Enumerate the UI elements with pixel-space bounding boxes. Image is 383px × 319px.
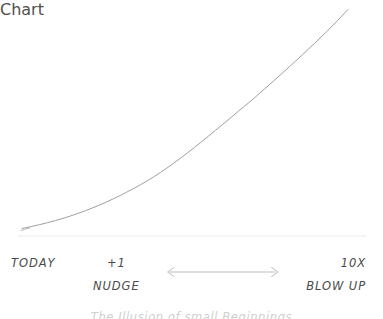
label-blow-up: BLOW UP [306,281,366,293]
label-plus-one: +1 [107,258,126,270]
label-ten-x: 10X [341,258,366,270]
label-layer: TODAY +1 NUDGE 10X BLOW UP The Illusion … [0,0,383,319]
label-nudge: NUDGE [93,281,140,293]
bottom-caption: The Illusion of small Beginnings [0,310,383,319]
label-today: TODAY [11,258,55,270]
